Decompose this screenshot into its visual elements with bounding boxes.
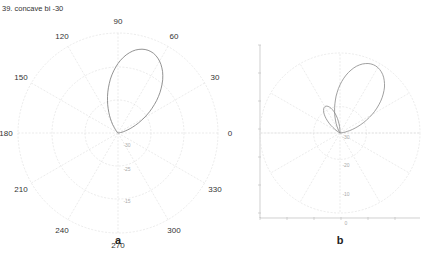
radial-tick-label: -20 — [342, 162, 349, 168]
angle-tick-label: 300 — [167, 226, 181, 235]
radial-tick-label: 0 — [345, 220, 348, 226]
radial-tick-label: -25 — [123, 166, 130, 172]
angle-tick-label: 90 — [114, 17, 123, 26]
grid-spoke — [340, 93, 409, 133]
polar-chart-a: 0306090120150180210240270300330-30-25-15 — [0, 17, 233, 250]
grid-spoke — [271, 93, 340, 133]
angle-tick-label: 330 — [208, 185, 222, 194]
main-lobe-trace — [108, 49, 163, 133]
panel-label-b: b — [337, 234, 344, 246]
radial-tick-label: -30 — [123, 142, 130, 148]
grid-spoke — [300, 64, 340, 133]
grid-spoke — [300, 133, 340, 202]
radial-tick-label: -30 — [342, 134, 349, 140]
radial-tick-label: -15 — [123, 198, 130, 204]
angle-tick-label: 210 — [14, 185, 28, 194]
angle-tick-label: 240 — [55, 226, 69, 235]
grid-spoke — [271, 133, 340, 173]
panel-label-a: a — [115, 234, 122, 246]
angle-tick-label: 30 — [211, 73, 220, 82]
angle-tick-label: 150 — [14, 73, 28, 82]
main-lobe-trace — [335, 64, 385, 134]
grid-spoke — [31, 83, 118, 133]
radial-tick-label: -10 — [342, 191, 349, 197]
grid-spoke — [68, 133, 118, 220]
polar-chart-b: -30-20-100 — [258, 45, 420, 226]
angle-tick-label: 180 — [0, 129, 13, 138]
grid-spoke — [118, 133, 205, 183]
grid-spoke — [31, 133, 118, 183]
angle-tick-label: 120 — [55, 32, 69, 41]
figure-canvas: 0306090120150180210240270300330-30-25-15… — [0, 0, 438, 257]
angle-tick-label: 60 — [170, 32, 179, 41]
grid-spoke — [340, 133, 409, 173]
grid-spoke — [118, 83, 205, 133]
grid-spoke — [340, 64, 380, 133]
angle-tick-label: 0 — [228, 129, 233, 138]
